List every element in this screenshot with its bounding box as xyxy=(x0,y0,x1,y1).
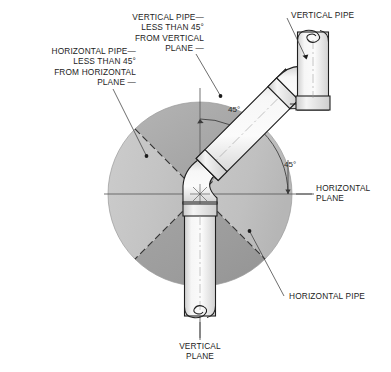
leader-dot-vertical-cone xyxy=(219,94,223,98)
leader-dot-horizontal-pipe xyxy=(248,229,252,233)
center-convergence-mark xyxy=(190,184,210,204)
vertical-pipe-upper xyxy=(296,30,330,110)
vertical-pipe-lower xyxy=(183,202,217,318)
label-horizontal-pipe-cone: HORIZONTAL PIPE— LESS THAN 45° FROM HORI… xyxy=(6,46,136,88)
vertical-pipe-upper-collar xyxy=(296,96,330,110)
label-vertical-pipe-top: VERTICAL PIPE xyxy=(291,10,387,20)
leader-dot-horizontal-cone xyxy=(145,154,149,158)
pipe-orientation-diagram: VERTICAL PIPE— LESS THAN 45° FROM VERTIC… xyxy=(0,0,391,372)
label-vertical-plane: VERTICAL PLANE xyxy=(166,341,234,362)
label-horizontal-pipe: HORIZONTAL PIPE xyxy=(289,291,391,301)
label-horizontal-plane: HORIZONTAL PLANE xyxy=(316,183,390,204)
label-angle-top: 45° xyxy=(228,105,240,114)
label-angle-right: 45° xyxy=(284,160,296,169)
